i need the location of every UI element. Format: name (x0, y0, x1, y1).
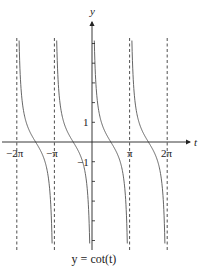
tick-label-neg-pi: −π (46, 147, 58, 159)
cot-graph: y t −2π −π π 2π 1 −1 (0, 0, 200, 278)
tick-label-one: 1 (83, 116, 89, 128)
tick-label-pi: π (127, 147, 133, 159)
x-axis-label: t (194, 136, 198, 148)
tick-label-neg-one: −1 (77, 156, 89, 168)
y-axis-label: y (89, 5, 95, 17)
tick-label-neg-two-pi: −2π (6, 147, 24, 159)
graph-caption: y = cot(t) (0, 252, 188, 267)
tick-label-two-pi: 2π (161, 147, 173, 159)
